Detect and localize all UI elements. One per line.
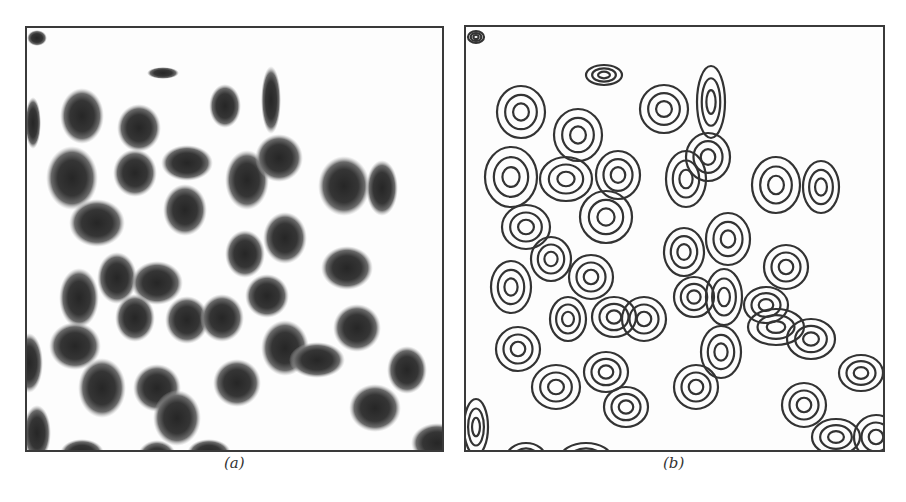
contour-group (491, 261, 531, 313)
blob (187, 439, 231, 450)
contour-group (764, 245, 808, 289)
blob (289, 342, 345, 378)
blob (147, 67, 179, 79)
contour-group (531, 237, 571, 281)
blob (60, 88, 104, 144)
blob (225, 230, 265, 278)
contour-group (706, 269, 742, 325)
blob (27, 30, 47, 46)
blob (255, 134, 303, 182)
blob (27, 97, 41, 149)
contour-group (540, 157, 592, 201)
contour-group (782, 383, 826, 427)
contour-group (752, 157, 800, 213)
blob (78, 358, 126, 418)
blob (366, 160, 398, 216)
contour-group (664, 228, 704, 276)
blob (387, 346, 427, 394)
contour-group (604, 387, 648, 427)
contour-group (748, 309, 804, 345)
contour-group (812, 419, 860, 450)
blob (261, 66, 281, 134)
blob (263, 212, 307, 264)
contour-group (622, 297, 666, 341)
blob (113, 149, 157, 197)
blob (153, 390, 201, 446)
blob (27, 405, 51, 450)
contour-group (674, 365, 718, 409)
blob (209, 84, 241, 128)
blob (411, 423, 442, 450)
contour-group (502, 205, 550, 249)
contour-group (496, 327, 540, 371)
blob (213, 359, 261, 407)
panel-b-contour-image (464, 25, 885, 452)
blob (200, 294, 244, 342)
blob (60, 439, 104, 450)
contour-group (550, 297, 586, 341)
blob (115, 294, 155, 342)
contour-group (560, 443, 612, 450)
blob (321, 246, 373, 290)
contour-group (569, 255, 613, 299)
contour-group (468, 31, 484, 43)
contour-group (701, 326, 741, 378)
contour-group (839, 355, 883, 391)
contour-group (554, 109, 602, 161)
contour-group (706, 213, 750, 265)
blob (318, 156, 370, 216)
blob (59, 268, 99, 328)
contour-group (584, 352, 628, 392)
blob (349, 384, 401, 432)
contour-group (506, 443, 546, 450)
contour-image (466, 27, 883, 450)
contour-group (640, 85, 688, 133)
blob (333, 304, 381, 352)
caption-b: (b) (663, 454, 684, 472)
blob-image (27, 28, 442, 450)
contour-group (686, 133, 730, 181)
blob (245, 274, 289, 318)
contour-group (466, 399, 488, 450)
blob (163, 184, 207, 236)
blob (117, 104, 161, 152)
blob (161, 145, 213, 181)
contour-group (697, 66, 725, 138)
contour-group (485, 147, 537, 207)
contour-group (580, 191, 632, 243)
blob (69, 199, 125, 247)
contour-group (532, 365, 580, 409)
panel-a-grayscale-image (25, 26, 444, 452)
contour-group (803, 161, 839, 213)
contour-group (497, 86, 545, 138)
blob (27, 333, 43, 393)
caption-a: (a) (224, 454, 245, 472)
contour-group (586, 65, 622, 85)
